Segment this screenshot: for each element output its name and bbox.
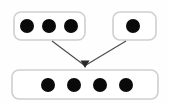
result-box-dot-2	[67, 78, 81, 92]
result-box-dot-1	[41, 78, 55, 92]
diagram-canvas	[0, 0, 169, 103]
result-box-outline	[12, 70, 158, 99]
source-box-left-dot-2	[42, 19, 56, 33]
result-box-dot-3	[93, 78, 107, 92]
diagram-svg	[0, 0, 169, 103]
result-box[interactable]	[12, 70, 158, 99]
arrow-group	[52, 41, 126, 68]
source-box-left[interactable]	[14, 12, 85, 40]
source-box-left-dot-3	[64, 19, 78, 33]
arrow-right-to-result	[86, 41, 126, 65]
arrow-left-to-result	[52, 41, 84, 65]
result-box-dot-4	[119, 78, 133, 92]
source-box-right-dot-1	[126, 19, 140, 33]
source-box-right[interactable]	[113, 12, 156, 40]
source-box-left-dot-1	[20, 19, 34, 33]
